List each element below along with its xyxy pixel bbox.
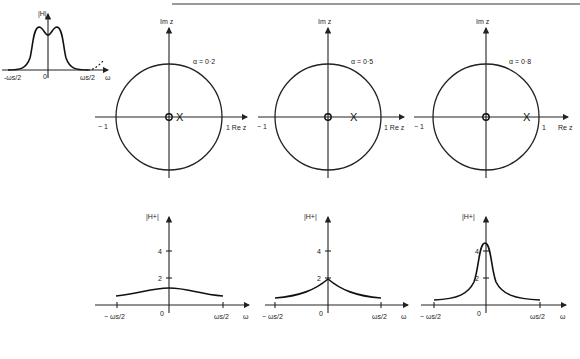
ylabel: |H+| [304,213,317,221]
inset-dashed-continuation [88,60,104,70]
response-alpha-0-2: |H+| 2 4 0 − ωs/2 ωs/2 ω [95,213,249,320]
tick-2-label: 2 [475,275,479,282]
re-label: Re z [558,124,573,131]
left-label: − ωs/2 [420,313,441,320]
pole-marker-icon: X [176,111,184,123]
left-label: − ωs/2 [104,313,125,320]
xlabel: ω [401,313,407,320]
inset-desired-response: |H| ω 0 -ωs/2 ωs/2 [2,10,111,81]
alpha-label: α = 0·8 [509,58,531,65]
re-label: 1 Re z [384,124,405,131]
alpha-label: α = 0·2 [193,58,215,65]
z-plane-alpha-0-2: X Im z α = 0·2 − 1 1 Re z [95,18,247,178]
inset-ylabel: |H| [38,10,47,18]
neg-one-label: − 1 [414,123,424,130]
im-label: Im z [476,18,490,25]
one-label: 1 [542,124,546,131]
zero-label: 0 [160,310,164,317]
right-label: ωs/2 [214,313,229,320]
inset-tick-zero: 0 [43,73,47,80]
response-alpha-0-5: |H+| 2 4 0 − ωs/2 ωs/2 ω [262,213,408,320]
xlabel: ω [560,313,566,320]
im-label: Im z [160,18,174,25]
re-label: 1 Re z [226,124,247,131]
left-label: − ωs/2 [262,313,283,320]
inset-tick-right: ωs/2 [80,74,95,81]
z-plane-alpha-0-8: X Im z α = 0·8 − 1 1 Re z [414,18,573,178]
neg-one-label: − 1 [257,123,267,130]
zero-label: 0 [477,310,481,317]
xlabel: ω [243,313,249,320]
alpha-label: α = 0·5 [351,58,373,65]
tick-2-label: 2 [158,275,162,282]
figure: |H| ω 0 -ωs/2 ωs/2 X Im z α = 0·2 − 1 1 … [0,0,580,359]
inset-tick-left: -ωs/2 [4,74,21,81]
right-label: ωs/2 [372,313,387,320]
tick-4-label: 4 [158,248,162,255]
right-label: ωs/2 [530,313,545,320]
tick-4-label: 4 [317,248,321,255]
tick-4-label: 4 [475,248,479,255]
ylabel: |H+| [462,213,475,221]
ylabel: |H+| [146,213,159,221]
zero-label: 0 [319,310,323,317]
pole-marker-icon: X [350,111,358,123]
im-label: Im z [318,18,332,25]
pole-marker-icon: X [523,111,531,123]
response-alpha-0-8: |H+| 2 4 0 − ωs/2 ωs/2 ω [420,213,566,320]
inset-xlabel: ω [105,74,111,81]
tick-2-label: 2 [317,275,321,282]
z-plane-alpha-0-5: X Im z α = 0·5 − 1 1 Re z [257,18,405,178]
neg-one-label: − 1 [98,123,108,130]
